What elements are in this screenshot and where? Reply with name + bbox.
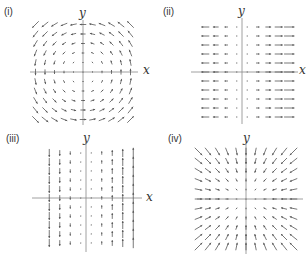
panel-iv: (iv) y [155,128,307,259]
panel-iii: (iii) y x [0,128,155,259]
vector-field-ii [155,0,307,128]
vector-field-iii [0,128,155,259]
panel-i: (i) y x [0,0,155,128]
vector-field-iv [155,128,307,259]
vector-field-i [0,0,155,128]
panel-ii: (ii) y x [155,0,307,128]
